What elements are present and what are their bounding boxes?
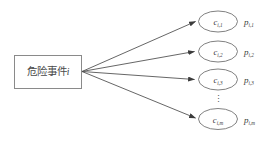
source-node-index: i <box>67 67 70 77</box>
vertical-ellipsis: ⋮ <box>214 94 223 104</box>
probability-sub-4: i,m <box>249 120 256 126</box>
arrow-to-branch-1 <box>82 22 196 72</box>
probability-label-4: pi,m <box>243 115 255 126</box>
consequence-sub-3: i,3 <box>217 80 223 86</box>
source-node-label: 危险事件i <box>27 65 70 77</box>
hazard-event-consequence-diagram: 危险事件i ci,1 pi,1 ci,2 pi,2 ci,3 pi,3 <box>0 0 271 141</box>
probability-sub-3: i,3 <box>249 80 255 86</box>
arrow-to-branch-2 <box>82 52 195 72</box>
diagram-canvas: 危险事件i ci,1 pi,1 ci,2 pi,2 ci,3 pi,3 <box>0 0 271 141</box>
consequence-sub-1: i,1 <box>217 22 223 28</box>
probability-sub-1: i,1 <box>249 22 255 28</box>
probability-label-3: pi,3 <box>243 75 254 86</box>
source-node-label-text: 危险事件 <box>27 65 67 77</box>
probability-label-1: pi,1 <box>243 17 254 28</box>
probability-sub-2: i,2 <box>249 52 255 58</box>
probability-label-2: pi,2 <box>243 47 254 58</box>
consequence-sub-2: i,2 <box>217 52 223 58</box>
consequence-sub-4: i,m <box>217 120 224 126</box>
